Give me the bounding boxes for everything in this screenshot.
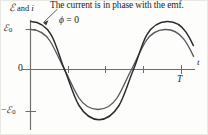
phase-annotation: ϕ = 0: [59, 15, 79, 25]
leader-line: [44, 9, 58, 23]
conjunction-text: and: [15, 4, 31, 13]
y-axis-title: ℰ and i: [9, 3, 34, 13]
y-tick-label-zero: 0: [18, 63, 23, 73]
curve-current: [31, 21, 193, 119]
y-tick-label-emf0: ℰ0: [3, 24, 12, 34]
current-symbol: i: [31, 3, 34, 13]
x-tick-label-period: T: [177, 75, 182, 84]
neg-emf0-subscript: 0: [12, 108, 15, 115]
figure-container: The current is in phase with the emf. ℰ …: [0, 0, 208, 135]
plot-canvas: [0, 0, 208, 135]
axis-lines: [22, 20, 195, 130]
emf0-subscript: 0: [9, 26, 12, 33]
y-tick-label-neg-emf0: −ℰ0: [1, 106, 16, 116]
phi-value: = 0: [64, 14, 79, 25]
arrowhead-icon: [43, 20, 48, 25]
x-axis-label: t: [197, 58, 200, 67]
leader-line-arrow: [43, 9, 57, 26]
figure-caption: The current is in phase with the emf.: [50, 1, 184, 10]
